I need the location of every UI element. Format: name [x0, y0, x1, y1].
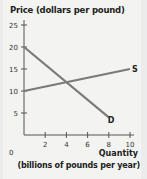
x-axis-sublabel: (billions of pounds per year) — [18, 161, 140, 170]
x-tick-label: 6 — [85, 141, 90, 149]
axes — [24, 20, 134, 135]
origin-label: 0 — [9, 149, 13, 157]
y-tick-label: 5 — [14, 110, 18, 118]
y-tick-label: 25 — [9, 22, 18, 30]
y-tick-label: 15 — [9, 66, 18, 74]
y-tick-label: 10 — [9, 88, 18, 96]
x-tick-label: 2 — [43, 141, 47, 149]
y-tick-label: 20 — [9, 44, 18, 52]
demand-curve — [24, 47, 109, 117]
x-tick-label: 8 — [107, 141, 111, 149]
demand-label: D — [108, 116, 115, 125]
x-tick-label: 10 — [126, 141, 135, 149]
supply-label: S — [132, 65, 138, 74]
x-tick-label: 4 — [64, 141, 69, 149]
x-axis-label: Quantity — [99, 149, 138, 158]
series: SD — [24, 47, 138, 125]
supply-curve — [24, 69, 130, 91]
